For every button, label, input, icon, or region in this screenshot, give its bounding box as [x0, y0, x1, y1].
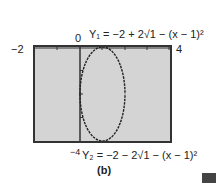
- y1-equation: Y₁ = −2 + 2√1 − (x − 1)²: [89, 28, 204, 40]
- ymin-label: −4: [70, 147, 80, 158]
- ymax-label: 0: [75, 33, 81, 44]
- xmin-label: −2: [11, 44, 24, 55]
- y1-curve: [80, 47, 125, 94]
- calculator-screen: [33, 45, 172, 143]
- marker-square: [202, 173, 216, 183]
- figure-caption: (b): [97, 164, 111, 176]
- y2-equation: Y₂ = −2 − 2√1 − (x − 1)²: [82, 149, 197, 161]
- y2-curve: [80, 94, 125, 141]
- graph-plot: [35, 47, 170, 141]
- xmax-label: 4: [176, 44, 182, 55]
